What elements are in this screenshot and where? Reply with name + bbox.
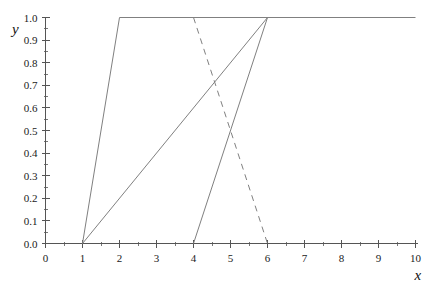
y-tick-label: 0.4 xyxy=(24,147,38,159)
x-tick-label: 7 xyxy=(302,252,308,264)
x-tick-label: 8 xyxy=(339,252,345,264)
x-tick-label: 1 xyxy=(80,252,86,264)
x-tick-label: 3 xyxy=(154,252,160,264)
x-tick-label: 2 xyxy=(117,252,123,264)
y-tick-label: 0.9 xyxy=(24,34,38,46)
fuzzy-membership-plot: 0.00.10.20.30.40.50.60.70.80.91.0 012345… xyxy=(0,0,432,294)
x-tick-label: 6 xyxy=(265,252,271,264)
series-slow-ramp-up xyxy=(83,18,268,244)
chart-container: 0.00.10.20.30.40.50.60.70.80.91.0 012345… xyxy=(0,0,432,294)
x-tick-label: 4 xyxy=(191,252,197,264)
x-tick-label: 5 xyxy=(228,252,234,264)
x-tick-label: 0 xyxy=(43,252,49,264)
data-series-layer xyxy=(83,18,416,244)
y-tick-label: 0.3 xyxy=(24,170,38,182)
y-tick-label: 0.2 xyxy=(24,192,38,204)
series-ramp-up-plateau xyxy=(83,18,416,244)
y-tick-label: 0.1 xyxy=(24,215,38,227)
x-axis-title: x xyxy=(414,267,422,283)
y-tick-label: 0.6 xyxy=(24,102,38,114)
y-tick-label: 0.0 xyxy=(24,238,38,250)
x-axis-tick-labels: 012345678910 xyxy=(43,252,422,264)
y-axis-title: y xyxy=(10,21,19,37)
y-tick-label: 0.8 xyxy=(24,57,38,69)
x-tick-label: 10 xyxy=(410,252,422,264)
x-tick-label: 9 xyxy=(376,252,382,264)
y-tick-label: 1.0 xyxy=(24,12,38,24)
y-axis-tick-labels: 0.00.10.20.30.40.50.60.70.80.91.0 xyxy=(24,12,38,250)
y-tick-label: 0.7 xyxy=(24,79,38,91)
y-tick-label: 0.5 xyxy=(24,125,38,137)
